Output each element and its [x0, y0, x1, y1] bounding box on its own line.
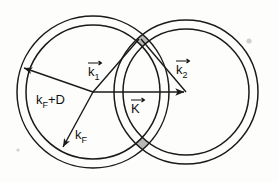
label-k2-text: k2 [176, 62, 188, 80]
label-K-base: K [131, 101, 140, 116]
vector-kf-plus-d-line [24, 68, 93, 92]
label-kf-plus-d-text: kF+D [36, 92, 65, 110]
label-kf: kF [75, 127, 88, 145]
label-K-text: K [131, 101, 140, 116]
fermi-annuli-diagram: kF+D kF k1 k2 K [0, 0, 278, 182]
figure-root: kF+D kF k1 k2 K [0, 0, 278, 182]
label-k1: k1 [88, 61, 101, 82]
paper-speck [246, 38, 251, 43]
label-k1-sub: 1 [95, 72, 100, 82]
label-kf-sub: F [82, 135, 88, 145]
label-kf-plus-d: kF+D [36, 92, 65, 110]
label-k2-sub: 2 [183, 70, 188, 80]
label-k2: k2 [176, 59, 189, 80]
label-kf-plus-d-suffix: +D [48, 92, 65, 107]
label-k1-text: k1 [88, 64, 100, 82]
shaded-overlap-group [0, 0, 278, 182]
paper-speck [16, 148, 19, 151]
label-kf-text: kF [75, 127, 88, 145]
label-K: K [131, 98, 144, 116]
vector-k1-line [93, 39, 139, 92]
shaded-overlap-regions [0, 0, 278, 182]
